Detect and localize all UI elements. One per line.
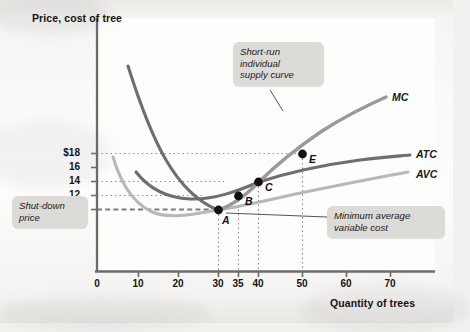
x-tick-label-20: 20 bbox=[165, 278, 191, 289]
y-axis-title-line2: of tree bbox=[89, 12, 122, 24]
x-tick-label-70: 70 bbox=[377, 278, 403, 289]
min-avc-callout-leader bbox=[226, 213, 327, 217]
callout-minimum-avc: Minimum average variable cost bbox=[327, 206, 445, 238]
point-C[interactable] bbox=[254, 178, 263, 187]
point-E[interactable] bbox=[298, 150, 307, 159]
y-axis-title-line1: Price, cost bbox=[32, 12, 86, 24]
x-tick-label-60: 60 bbox=[333, 278, 359, 289]
callout-short-run-supply-line2: individual bbox=[240, 58, 317, 70]
point-B[interactable] bbox=[234, 192, 243, 201]
point-label-C: C bbox=[265, 181, 273, 193]
supply-callout-leader bbox=[270, 90, 283, 111]
callout-minimum-avc-line2: variable cost bbox=[334, 222, 438, 234]
callout-short-run-supply: Short-run individual supply curve bbox=[233, 42, 324, 86]
curve-label-avc: AVC bbox=[416, 168, 437, 180]
y-tick-label-14: 14 bbox=[46, 175, 80, 186]
y-tick-label-16: 16 bbox=[46, 161, 80, 172]
point-label-E: E bbox=[309, 153, 316, 165]
x-tick-label-10: 10 bbox=[125, 278, 151, 289]
callout-short-run-supply-line1: Short-run bbox=[240, 46, 317, 58]
callout-shut-down-price: Shut-down price bbox=[12, 196, 88, 228]
callout-shut-down-price-line1: Shut-down bbox=[19, 200, 81, 212]
x-tick-label-50: 50 bbox=[289, 278, 315, 289]
x-axis-title: Quantity of trees bbox=[330, 297, 415, 309]
curve-label-mc: MC bbox=[392, 91, 408, 103]
point-label-B: B bbox=[245, 195, 253, 207]
callout-shut-down-price-line2: price bbox=[19, 212, 81, 224]
callout-minimum-avc-line1: Minimum average bbox=[334, 210, 438, 222]
x-tick-label-40: 40 bbox=[245, 278, 271, 289]
curve-mc-lower bbox=[128, 66, 218, 210]
x-tick-label-0: 0 bbox=[84, 278, 110, 289]
callout-short-run-supply-line3: supply curve bbox=[240, 69, 317, 81]
point-label-A: A bbox=[222, 214, 230, 226]
y-axis-title: Price, cost of tree bbox=[32, 12, 94, 24]
curve-label-atc: ATC bbox=[416, 148, 437, 160]
y-tick-label-18: $18 bbox=[46, 147, 80, 158]
